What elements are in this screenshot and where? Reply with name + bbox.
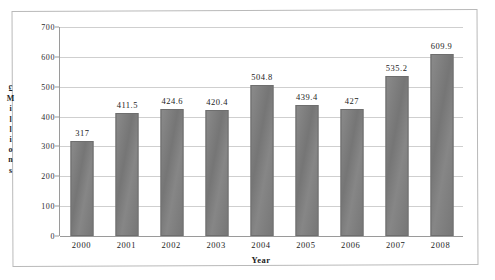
- bar[interactable]: [295, 105, 318, 236]
- y-axis-title-glyph: i: [4, 135, 17, 145]
- x-axis-tick-label: 2002: [162, 240, 181, 250]
- bar-value-label: 439.4: [296, 92, 318, 102]
- bar-group[interactable]: 427: [329, 27, 374, 236]
- bar-group[interactable]: 504.8: [240, 27, 285, 236]
- x-axis-tick-label: 2004: [251, 240, 270, 250]
- x-axis-tick-label: 2008: [431, 240, 450, 250]
- y-axis-title: £Millions: [4, 84, 17, 176]
- bar-value-label: 427: [345, 96, 359, 106]
- y-axis-tick-label: 400: [15, 112, 55, 121]
- bar-group[interactable]: 424.6: [150, 27, 195, 236]
- y-axis-tick-label: 100: [15, 202, 55, 211]
- x-axis-title: Year: [59, 255, 463, 265]
- bar-value-label: 317: [75, 128, 89, 138]
- bar-value-label: 609.9: [431, 41, 453, 51]
- y-axis-tick-label: 300: [15, 142, 55, 151]
- bar-group[interactable]: 609.9: [419, 27, 464, 236]
- x-axis-tick-label: 2000: [72, 240, 91, 250]
- bar-group[interactable]: 317: [60, 27, 105, 236]
- y-axis-title-glyph: o: [4, 145, 17, 155]
- x-axis-baseline: [60, 236, 463, 237]
- bar-value-label: 504.8: [251, 72, 273, 82]
- bar[interactable]: [385, 76, 408, 236]
- bar[interactable]: [206, 110, 229, 236]
- x-axis-tick-label: 2001: [117, 240, 136, 250]
- bar-value-label: 535.2: [386, 63, 408, 73]
- bar-value-label: 424.6: [161, 96, 183, 106]
- x-axis-tick-label: 2007: [386, 240, 405, 250]
- y-axis-tick-label: 0: [15, 232, 55, 241]
- bar-chart-figure: 0100200300400500600700 £Millions 317411.…: [0, 0, 495, 280]
- y-axis-title-glyph: l: [4, 115, 17, 125]
- plot-area: 317411.5424.6420.4504.8439.4427535.2609.…: [59, 27, 463, 236]
- bar[interactable]: [71, 141, 94, 236]
- bar[interactable]: [340, 109, 363, 236]
- bar-value-label: 411.5: [117, 100, 138, 110]
- y-axis-title-glyph: n: [4, 155, 17, 165]
- bar-group[interactable]: 439.4: [284, 27, 329, 236]
- bar[interactable]: [161, 109, 184, 236]
- y-axis-title-glyph: s: [4, 166, 17, 176]
- y-axis-title-glyph: l: [4, 125, 17, 135]
- y-axis-title-glyph: M: [4, 94, 17, 104]
- bar-group[interactable]: 535.2: [374, 27, 419, 236]
- y-axis-tick-label: 700: [15, 23, 55, 32]
- bar[interactable]: [116, 113, 139, 236]
- y-axis-tick-label: 500: [15, 82, 55, 91]
- bar-value-label: 420.4: [206, 97, 228, 107]
- y-axis-tick-label: 200: [15, 172, 55, 181]
- x-axis-tick-group: 200020012002200320042005200620072008: [59, 240, 463, 254]
- y-axis-tick-label: 600: [15, 52, 55, 61]
- bar[interactable]: [430, 54, 453, 236]
- bar[interactable]: [250, 85, 273, 236]
- x-axis-tick-label: 2006: [341, 240, 360, 250]
- x-axis-tick-label: 2003: [206, 240, 225, 250]
- y-axis-title-glyph: £: [4, 84, 17, 94]
- y-axis-title-glyph: i: [4, 104, 17, 114]
- bar-group[interactable]: 411.5: [105, 27, 150, 236]
- x-axis-tick-label: 2005: [296, 240, 315, 250]
- bar-group[interactable]: 420.4: [195, 27, 240, 236]
